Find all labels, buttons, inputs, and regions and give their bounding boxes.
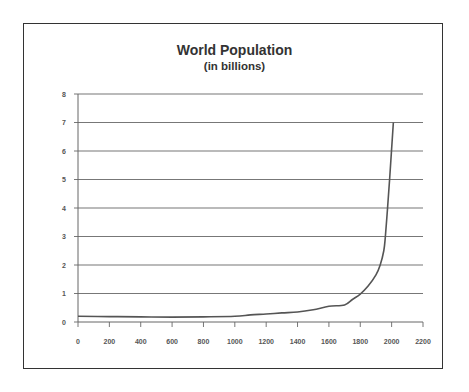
y-tick-label: 5 [62, 176, 66, 183]
x-tick-label: 1600 [321, 338, 337, 345]
y-tick-label: 8 [62, 91, 66, 98]
x-tick-label: 400 [135, 338, 147, 345]
y-tick-label: 4 [62, 205, 66, 212]
y-tick-label: 2 [62, 262, 66, 269]
x-tick-label: 2200 [415, 338, 431, 345]
x-tick-label: 1400 [290, 338, 306, 345]
y-tick-label: 0 [62, 319, 66, 326]
population-line [78, 123, 393, 318]
x-tick-label: 1200 [258, 338, 274, 345]
y-tick-label: 1 [62, 290, 66, 297]
y-tick-label: 7 [62, 119, 66, 126]
y-axis-ticks: 012345678 [62, 91, 78, 326]
x-axis-ticks: 0200400600800100012001400160018002000220… [76, 322, 431, 345]
x-tick-label: 800 [198, 338, 210, 345]
x-tick-label: 1800 [352, 338, 368, 345]
x-tick-label: 600 [166, 338, 178, 345]
y-tick-label: 6 [62, 148, 66, 155]
gridlines [78, 94, 423, 294]
x-tick-label: 1000 [227, 338, 243, 345]
y-tick-label: 3 [62, 233, 66, 240]
x-tick-label: 2000 [384, 338, 400, 345]
x-tick-label: 200 [104, 338, 116, 345]
x-tick-label: 0 [76, 338, 80, 345]
plot-area: 012345678 020040060080010001200140016001… [0, 0, 469, 392]
